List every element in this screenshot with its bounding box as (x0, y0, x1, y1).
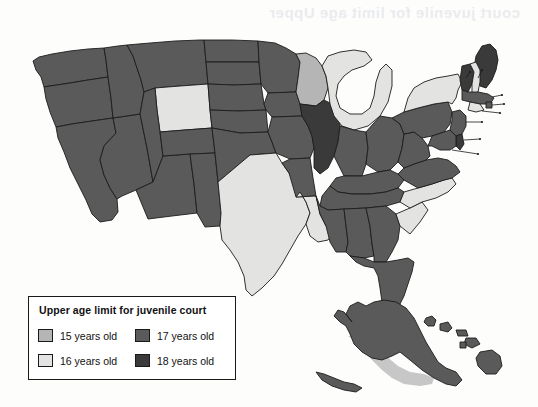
state-MN[interactable] (258, 41, 300, 93)
tick-NJ (481, 121, 483, 123)
leader-DE (464, 139, 480, 140)
legend-label-16: 16 years old (60, 355, 117, 367)
legend-label-15: 15 years old (60, 330, 117, 342)
state-SD[interactable] (206, 62, 261, 85)
state-OH[interactable] (366, 116, 404, 172)
state-WY[interactable] (155, 84, 212, 132)
tick-RI (503, 103, 505, 105)
state-HI-lanai[interactable] (460, 342, 466, 348)
legend-swatch-17 (135, 329, 150, 342)
legend-item-16[interactable]: 16 years old (38, 348, 135, 373)
state-group-AK (316, 300, 462, 392)
state-HI-molokai[interactable] (456, 330, 468, 336)
legend-label-17: 17 years old (157, 330, 214, 342)
state-HI-oahu[interactable] (440, 322, 452, 332)
state-IA[interactable] (264, 92, 302, 117)
legend-item-18[interactable]: 18 years old (135, 348, 232, 373)
legend-swatch-15 (38, 329, 53, 342)
leader-MD (452, 150, 478, 154)
leader-MA (492, 95, 502, 97)
leader-RI (492, 104, 504, 105)
legend-swatch-16 (38, 354, 53, 367)
tick-NH (481, 69, 483, 71)
tick-MA (501, 94, 503, 96)
map-legend: Upper age limit for juvenile court 15 ye… (28, 296, 236, 380)
legend-item-17[interactable]: 17 years old (135, 323, 232, 348)
contiguous-states (33, 40, 498, 316)
tick-CT (499, 112, 501, 114)
state-HI-kauai[interactable] (424, 316, 436, 326)
state-ND[interactable] (204, 40, 259, 62)
legend-swatch-18 (135, 354, 150, 367)
state-AK[interactable] (316, 300, 462, 392)
state-NE[interactable] (208, 84, 266, 111)
legend-title: Upper age limit for juvenile court (39, 304, 235, 316)
state-HI-bigisland[interactable] (476, 350, 502, 374)
legend-items: 15 years old 17 years old 16 years old 1… (38, 323, 235, 373)
state-DE[interactable] (456, 134, 464, 150)
state-RI[interactable] (486, 102, 492, 108)
scanned-page: court juvenile for limit age Upper (0, 0, 538, 407)
tick-VT (469, 71, 471, 73)
state-IN[interactable] (334, 126, 368, 176)
state-WI[interactable] (296, 53, 328, 106)
tick-DE (479, 138, 481, 140)
state-CO[interactable] (160, 128, 215, 156)
leader-CT (482, 111, 500, 113)
legend-item-15[interactable]: 15 years old (38, 323, 135, 348)
legend-label-18: 18 years old (157, 355, 214, 367)
tick-MD (477, 153, 479, 155)
